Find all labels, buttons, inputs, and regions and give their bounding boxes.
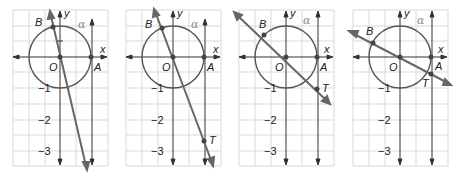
label-x: x [99,43,106,55]
point-o [284,55,289,60]
point-o [171,55,176,60]
tick-label-neg2: −2 [38,114,51,126]
point-o [58,55,63,60]
panel-1: B y α x O A −1 −2 −3 [0,0,115,173]
ray [48,11,89,170]
label-t: T [422,77,430,89]
label-b: B [35,16,42,28]
panel-3: B y α x O A T −1 −2 −3 [226,0,341,173]
label-alpha: α [191,18,199,31]
unit-circle-diagram-2: B y α x O A T −1 −2 −3 [113,0,228,173]
unit-circle-diagram-4: B y α x O A T −1 −2 −3 [340,0,457,173]
tick-label-neg3: −3 [38,145,51,157]
label-a: A [206,61,214,73]
point-t [429,72,434,77]
point-a [202,55,207,60]
label-y: y [289,7,297,19]
label-b: B [145,18,152,30]
tick-label-neg3: −3 [378,145,391,157]
label-alpha: α [417,14,425,27]
point-o [398,55,403,60]
panel-4: B y α x O A T −1 −2 −3 [340,0,455,173]
label-b: B [366,25,373,37]
label-y: y [403,7,411,19]
point-b [371,41,376,46]
tick-label-neg2: −2 [264,114,277,126]
label-o: O [275,61,284,73]
label-a: A [319,61,327,73]
tick-label-neg3: −3 [264,145,277,157]
point-b [51,25,56,30]
label-x: x [212,43,219,55]
point-a [89,55,94,60]
label-b: B [259,18,266,30]
tick-label-neg1: −1 [264,82,277,94]
tick-label-neg2: −2 [378,114,391,126]
label-o: O [162,61,171,73]
unit-circle-diagram-1: B y α x O A −1 −2 −3 [0,0,115,173]
label-o: O [389,61,398,73]
point-b [262,33,267,38]
point-t [202,139,207,144]
label-alpha: α [303,14,311,27]
tick-label-neg3: −3 [151,145,164,157]
label-a: A [434,60,442,72]
label-y: y [176,7,184,19]
point-t [315,87,320,92]
label-y: y [63,7,71,19]
point-a [315,55,320,60]
point-a [429,55,434,60]
unit-circle-diagram-3: B y α x O A T −1 −2 −3 [226,0,341,173]
label-a: A [93,61,101,73]
tick-label-neg1: −1 [151,82,164,94]
label-o: O [49,61,58,73]
label-x: x [323,43,330,55]
label-t: T [209,134,217,146]
tick-label-neg1: −1 [38,82,51,94]
label-alpha: α [78,18,86,31]
label-x: x [437,43,444,55]
panel-2: B y α x O A T −1 −2 −3 [113,0,228,173]
tick-label-neg1: −1 [378,82,391,94]
point-b [160,26,165,31]
tick-label-neg2: −2 [151,114,164,126]
